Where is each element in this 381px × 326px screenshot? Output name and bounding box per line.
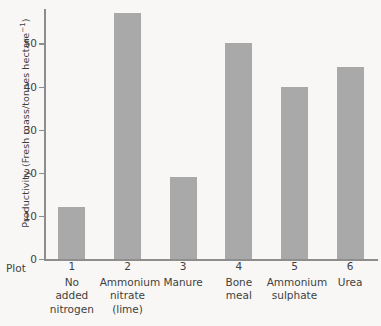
x-tick-number: 3 [155,260,211,274]
x-tick-name-line: added [44,289,100,303]
x-tick-name-line: sulphate [267,289,323,303]
bar-plot-3 [170,177,197,259]
bar-plot-4 [225,43,252,259]
x-label-group-3: 3Manure [155,260,211,289]
x-tick-number: 1 [44,260,100,274]
x-axis-title: Plot [6,262,26,274]
x-tick-name-line: nitrate [100,289,156,303]
x-tick-number: 6 [322,260,378,274]
y-tick-mark [39,173,44,174]
x-label-group-6: 6Urea [322,260,378,289]
bar-plot-5 [281,87,308,259]
x-tick-number: 5 [267,260,323,274]
y-tick-label: 10 [24,210,37,222]
x-tick-name-line: Ammonium [267,276,323,290]
y-tick-label: 40 [24,81,37,93]
y-tick-label: 50 [24,37,37,49]
x-axis-tick-labels: 1Noaddednitrogen2Ammoniumnitrate(lime)3M… [44,260,378,326]
x-label-group-4: 4Bonemeal [211,260,267,303]
x-tick-name-line: (lime) [100,303,156,317]
bar-plot-1 [58,207,85,259]
y-axis-title-exponent: −1 [19,22,27,33]
x-label-group-2: 2Ammoniumnitrate(lime) [100,260,156,316]
y-axis-line [44,9,46,259]
y-tick-mark [39,87,44,88]
x-tick-number: 4 [211,260,267,274]
y-axis-title-paren: ) [20,18,31,22]
y-tick-label: 20 [24,167,37,179]
x-tick-name-line: Manure [155,276,211,290]
bar-plot-2 [114,13,141,259]
y-tick-label: 30 [24,124,37,136]
x-tick-name-line: No [44,276,100,290]
x-tick-name-line: Ammonium [100,276,156,290]
bar-plot-6 [337,67,364,259]
bar-chart-figure: Productivity (Fresh mass/tonnes hectare−… [0,0,381,326]
x-label-group-5: 5Ammoniumsulphate [267,260,323,303]
y-tick-mark [39,130,44,131]
x-tick-name-line: Urea [322,276,378,290]
y-tick-mark [39,43,44,44]
x-tick-name-line: Bone [211,276,267,290]
y-tick-mark [39,216,44,217]
x-tick-number: 2 [100,260,156,274]
y-tick-label: 0 [30,253,37,265]
plot-area: 01020304050 [44,9,378,259]
x-label-group-1: 1Noaddednitrogen [44,260,100,316]
x-tick-name-line: meal [211,289,267,303]
x-tick-name-line: nitrogen [44,303,100,317]
